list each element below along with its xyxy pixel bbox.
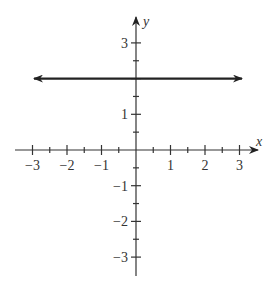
x-tick-label: −2 [60, 158, 75, 173]
x-axis-ticks: −3−2−1123 [25, 145, 243, 173]
y-tick-label: 1 [121, 107, 128, 122]
x-tick-label: 3 [236, 158, 243, 173]
x-tick-label: −1 [94, 158, 109, 173]
graph-plot: −3−2−1123 −3−2−113 x y [0, 0, 275, 283]
y-tick-label: −2 [113, 214, 128, 229]
y-tick-label: 3 [121, 36, 128, 51]
x-tick-label: 2 [202, 158, 209, 173]
y-tick-label: −3 [113, 250, 128, 265]
y-tick-label: −1 [113, 179, 128, 194]
x-tick-label: −3 [25, 158, 40, 173]
y-axis-label: y [141, 14, 150, 29]
x-tick-label: 1 [167, 158, 174, 173]
x-axis-label: x [255, 134, 263, 149]
